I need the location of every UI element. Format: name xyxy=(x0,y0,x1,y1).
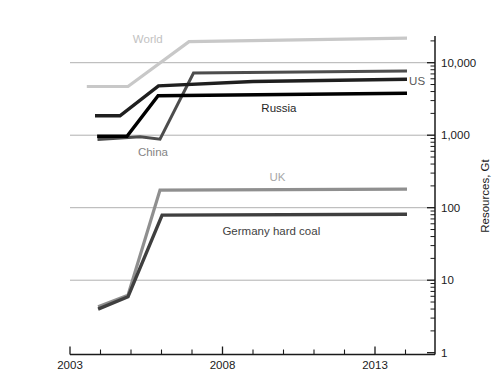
x-tick-label-2003: 2003 xyxy=(57,359,83,371)
chart-background xyxy=(40,16,496,371)
chart-canvas: 2003200820131101001,00010,000WorldChinaU… xyxy=(40,16,496,371)
series-label-us: US xyxy=(409,75,425,87)
y-tick-label-1000: 1,000 xyxy=(441,129,470,141)
series-label-uk: UK xyxy=(269,171,285,183)
y-axis-title: Resources, Gt xyxy=(479,158,491,232)
x-tick-label-2013: 2013 xyxy=(362,359,388,371)
chart-figure: 2003200820131101001,00010,000WorldChinaU… xyxy=(40,16,496,371)
chart: 2003200820131101001,00010,000WorldChinaU… xyxy=(40,16,496,371)
series-label-germany-hard-coal: Germany hard coal xyxy=(222,225,320,237)
y-tick-label-10: 10 xyxy=(441,274,454,286)
series-label-world: World xyxy=(133,33,163,45)
series-label-russia: Russia xyxy=(261,102,297,114)
y-tick-label-1: 1 xyxy=(441,347,447,359)
y-tick-label-10000: 10,000 xyxy=(441,57,476,69)
series-label-china: China xyxy=(138,146,169,158)
x-tick-label-2008: 2008 xyxy=(210,359,236,371)
y-tick-label-100: 100 xyxy=(441,202,460,214)
